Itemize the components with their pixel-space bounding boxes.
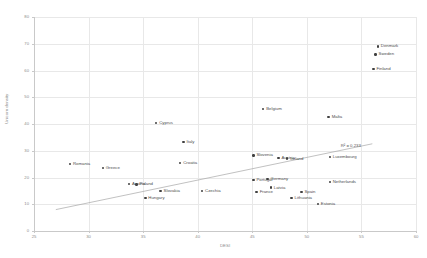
- data-point-label: Slovenia: [256, 153, 272, 157]
- trendline: [0, 0, 427, 258]
- data-point[interactable]: [300, 191, 302, 193]
- data-point[interactable]: [372, 68, 374, 70]
- data-point[interactable]: [374, 53, 376, 55]
- data-point-label: Denmark: [381, 44, 398, 48]
- data-point-label: Germany: [271, 177, 289, 181]
- data-point-label: Estonia: [321, 202, 335, 206]
- x-axis-title: DESI: [34, 243, 416, 248]
- data-point-label: France: [260, 190, 273, 194]
- data-point-label: Finland: [376, 67, 390, 71]
- data-point[interactable]: [329, 156, 331, 158]
- data-point-label: Ireland: [290, 156, 303, 160]
- data-point-label: Romania: [73, 162, 90, 166]
- data-point-label: Czechia: [205, 189, 221, 193]
- data-point-label: Greece: [106, 166, 120, 170]
- data-point-label: Malta: [332, 115, 343, 119]
- data-point-label: Belgium: [266, 107, 282, 111]
- data-point-label: Sweden: [379, 52, 395, 56]
- data-point[interactable]: [102, 167, 104, 169]
- data-point-label: Cyprus: [159, 121, 173, 125]
- data-point-label: Hungary: [148, 196, 164, 200]
- data-point-label: Luxembourg: [333, 155, 357, 159]
- data-point-label: Spain: [304, 190, 315, 194]
- data-point-label: Netherlands: [333, 180, 356, 184]
- data-point[interactable]: [144, 197, 146, 199]
- data-point-label: Italy: [187, 140, 195, 144]
- data-point[interactable]: [159, 190, 161, 192]
- data-point-label: Austria: [132, 182, 145, 186]
- data-point[interactable]: [182, 141, 184, 143]
- r-squared-annotation: R² = 0.233: [341, 143, 361, 148]
- data-point-label: Latvia: [274, 186, 285, 190]
- data-point[interactable]: [252, 154, 254, 156]
- data-point-label: Croatia: [183, 161, 197, 165]
- scatter-chart: 01020304050607080 2530354045505560 Denma…: [0, 0, 427, 258]
- data-point[interactable]: [317, 203, 319, 205]
- data-point-label: Lithuania: [295, 196, 312, 200]
- data-point[interactable]: [255, 191, 257, 193]
- data-point-label: Slovakia: [164, 189, 180, 193]
- y-axis-title: Unicorn density: [4, 94, 9, 124]
- data-point[interactable]: [377, 45, 379, 47]
